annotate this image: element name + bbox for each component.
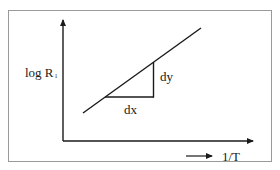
dx-label: dx bbox=[124, 103, 137, 116]
y-axis-label-text: log R bbox=[25, 65, 54, 80]
trend-line bbox=[83, 28, 201, 113]
y-axis-label-subscript: 1 bbox=[55, 73, 58, 79]
dy-label: dy bbox=[160, 70, 173, 83]
x-axis-label: 1/T bbox=[222, 150, 240, 163]
y-axis-label: log R1 bbox=[25, 66, 58, 79]
plot-canvas bbox=[0, 0, 280, 170]
